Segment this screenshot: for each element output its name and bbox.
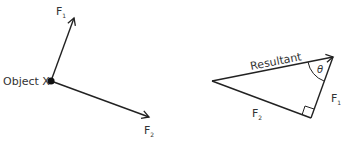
vector-triangle: Resultant θ F1 F2: [212, 50, 341, 121]
side2-label: F2: [252, 107, 262, 121]
side1-label: F1: [331, 92, 341, 106]
object-x-label: Object X: [3, 75, 50, 88]
force2-label: F2: [144, 124, 154, 138]
resultant-label: Resultant: [249, 50, 303, 73]
free-body-diagram: Object X F1 F2: [3, 5, 154, 138]
f2-side: [212, 81, 311, 118]
force2-arrow: [51, 81, 149, 117]
force1-arrow: [51, 18, 74, 81]
force-diagram-canvas: Object X F1 F2 Resultant θ F1 F2: [0, 0, 342, 145]
theta-label: θ: [317, 64, 323, 75]
force1-label: F1: [56, 5, 66, 19]
